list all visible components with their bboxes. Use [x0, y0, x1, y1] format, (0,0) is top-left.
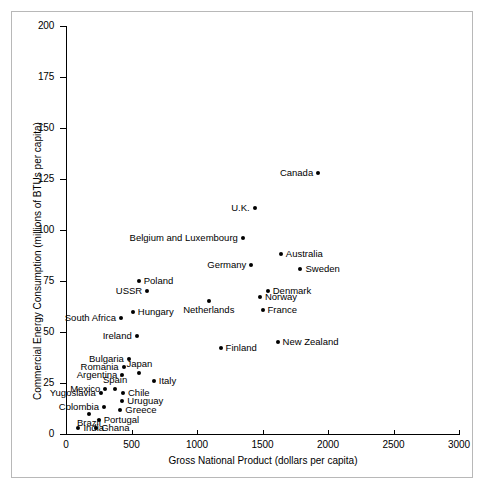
data-point-label: Sweden — [305, 264, 339, 274]
x-tick-mark — [132, 430, 133, 435]
y-tick-mark — [60, 128, 66, 129]
data-point-label: Colombia — [59, 402, 99, 412]
data-point-label: Yugoslavia — [50, 388, 96, 398]
data-point-label: South Africa — [65, 313, 116, 323]
data-point[interactable] — [137, 279, 141, 283]
x-tick-mark — [459, 430, 460, 435]
data-point[interactable] — [122, 365, 126, 369]
y-tick-mark — [60, 179, 66, 180]
x-tick-mark — [197, 430, 198, 435]
x-tick-label: 2000 — [303, 440, 353, 450]
y-axis-line — [66, 26, 67, 435]
y-tick-mark — [60, 230, 66, 231]
data-point-label: USSR — [116, 286, 142, 296]
data-point[interactable] — [131, 310, 135, 314]
data-point-label: Ghana — [101, 423, 130, 433]
data-point-label: Canada — [280, 168, 313, 178]
data-point[interactable] — [219, 346, 223, 350]
data-point-label: Poland — [144, 276, 174, 286]
data-point-label: Germany — [207, 260, 246, 270]
y-tick-mark — [60, 77, 66, 78]
data-point[interactable] — [99, 391, 103, 395]
y-tick-label: 200 — [14, 21, 54, 31]
data-point[interactable] — [94, 426, 98, 430]
data-point[interactable] — [241, 236, 245, 240]
data-point-label: Netherlands — [183, 305, 234, 315]
data-point[interactable] — [152, 379, 156, 383]
x-tick-label: 3000 — [434, 440, 484, 450]
y-tick-mark — [60, 281, 66, 282]
x-tick-label: 1500 — [238, 440, 288, 450]
x-tick-label: 500 — [107, 440, 157, 450]
data-point-label: Finland — [226, 343, 257, 353]
x-tick-mark — [328, 430, 329, 435]
data-point-label: U.K. — [231, 203, 249, 213]
data-point-label: Japan — [126, 359, 152, 369]
data-point[interactable] — [253, 206, 257, 210]
data-point[interactable] — [87, 412, 91, 416]
data-point-label: France — [268, 305, 298, 315]
data-point[interactable] — [135, 334, 139, 338]
data-point-label: Spain — [103, 375, 127, 385]
data-point-label: Norway — [265, 292, 297, 302]
data-point-label: Australia — [286, 249, 323, 259]
data-point-label: New Zealand — [283, 337, 339, 347]
y-tick-label: 0 — [14, 429, 54, 439]
data-point-label: Italy — [159, 376, 176, 386]
x-tick-label: 0 — [41, 440, 91, 450]
data-point[interactable] — [261, 308, 265, 312]
data-point-label: Ireland — [103, 331, 132, 341]
x-tick-mark — [394, 430, 395, 435]
x-axis-title: Gross National Product (dollars per capi… — [66, 455, 460, 466]
x-tick-label: 1000 — [172, 440, 222, 450]
y-tick-mark — [60, 332, 66, 333]
data-point-label: Belgium and Luxembourg — [130, 233, 238, 243]
y-tick-label: 175 — [14, 72, 54, 82]
y-tick-mark — [60, 26, 66, 27]
data-point[interactable] — [119, 316, 123, 320]
y-axis-title: Commercial Energy Consumption (millions … — [32, 122, 43, 400]
y-tick-mark — [60, 434, 66, 435]
scatter-plot-figure: 0255075100125150175200 05001000150020002… — [0, 0, 486, 494]
y-tick-mark — [60, 383, 66, 384]
x-tick-label: 2500 — [369, 440, 419, 450]
data-point[interactable] — [276, 340, 280, 344]
data-point-label: Hungary — [138, 307, 174, 317]
data-point[interactable] — [118, 408, 122, 412]
x-tick-mark — [263, 430, 264, 435]
